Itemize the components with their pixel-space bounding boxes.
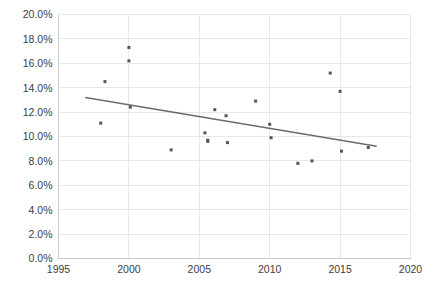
y-tick-label: 20.0% (23, 8, 53, 20)
data-point (129, 106, 132, 109)
data-point (225, 114, 228, 117)
data-point (340, 150, 343, 153)
data-point (226, 141, 229, 144)
data-point (367, 146, 370, 149)
data-point (339, 90, 342, 93)
y-tick-label: 8.0% (29, 155, 53, 167)
data-point (329, 72, 332, 75)
data-point (127, 59, 130, 62)
x-tick-label: 2015 (328, 263, 352, 275)
data-point (206, 140, 209, 143)
y-tick-label: 12.0% (23, 106, 53, 118)
x-tick-label: 2020 (399, 263, 423, 275)
data-point (254, 100, 257, 103)
x-axis-tick-labels: 199520002005201020152020 (47, 263, 423, 275)
data-point (296, 162, 299, 165)
y-tick-label: 2.0% (29, 228, 53, 240)
data-point (203, 131, 206, 134)
scatter-chart: 0.0%2.0%4.0%6.0%8.0%10.0%12.0%14.0%16.0%… (0, 0, 440, 289)
y-tick-label: 6.0% (29, 179, 53, 191)
y-tick-label: 10.0% (23, 130, 53, 142)
x-tick-label: 2005 (188, 263, 212, 275)
data-point (103, 80, 106, 83)
y-axis-tick-labels: 0.0%2.0%4.0%6.0%8.0%10.0%12.0%14.0%16.0%… (23, 8, 53, 264)
x-tick-label: 2000 (117, 263, 141, 275)
x-tick-label: 2010 (258, 263, 282, 275)
y-tick-label: 14.0% (23, 82, 53, 94)
y-tick-label: 4.0% (29, 204, 53, 216)
x-tick-label: 1995 (47, 263, 71, 275)
data-point (310, 159, 313, 162)
plot-area: 0.0%2.0%4.0%6.0%8.0%10.0%12.0%14.0%16.0%… (0, 0, 440, 289)
data-point (268, 123, 271, 126)
data-point (170, 148, 173, 151)
horizontal-gridlines (59, 15, 411, 235)
y-tick-label: 18.0% (23, 33, 53, 45)
data-point (213, 108, 216, 111)
data-point (127, 46, 130, 49)
data-point (270, 136, 273, 139)
y-tick-label: 16.0% (23, 57, 53, 69)
data-point (99, 122, 102, 125)
